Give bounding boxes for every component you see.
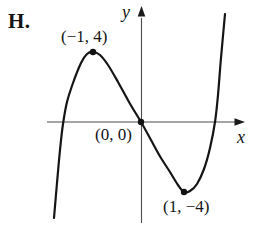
- x-axis-arrow-icon: [235, 118, 246, 126]
- point-label-local-max: (−1, 4): [61, 28, 107, 45]
- point-marker-local-min: [181, 189, 187, 195]
- figure-label: H.: [8, 11, 31, 32]
- point-marker-origin: [138, 119, 144, 125]
- graph-canvas: [0, 0, 253, 241]
- y-axis-arrow-icon: [138, 6, 146, 17]
- y-axis-label: y: [122, 3, 130, 21]
- point-label-origin: (0, 0): [95, 126, 132, 143]
- point-label-local-min: (1, −4): [163, 198, 209, 215]
- function-graph-figure: H. y x (−1, 4) (0, 0) (1, −4): [0, 0, 253, 241]
- point-marker-local-max: [90, 49, 96, 55]
- x-axis-label: x: [237, 128, 245, 146]
